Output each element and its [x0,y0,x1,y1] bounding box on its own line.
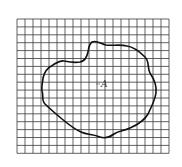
grid-figure: A [0,0,182,167]
irregular-region-boundary [42,41,156,137]
square-grid [17,19,169,153]
region-label: A [100,79,108,89]
